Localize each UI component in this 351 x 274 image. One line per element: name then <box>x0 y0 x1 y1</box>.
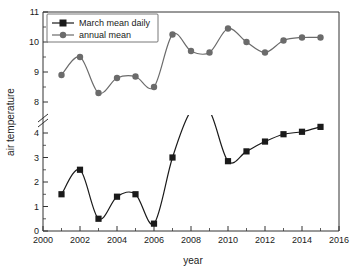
data-point <box>77 54 83 60</box>
x-axis-title: year <box>183 255 203 266</box>
x-tick-label-2008: 2008 <box>181 235 201 245</box>
data-point <box>280 37 286 43</box>
x-tick-label-2010: 2010 <box>218 235 238 245</box>
x-tick-label-2016: 2016 <box>329 235 349 245</box>
y-axis-title: air temperature <box>5 88 16 156</box>
data-point <box>132 191 138 197</box>
data-point <box>188 48 194 54</box>
legend: March mean daily annual mean <box>47 14 158 42</box>
y-tick-label-11: 11 <box>30 7 39 17</box>
data-point <box>317 34 323 40</box>
data-point <box>225 158 231 164</box>
data-point <box>114 75 120 81</box>
data-point <box>132 73 138 79</box>
data-point <box>58 191 64 197</box>
legend-marker-square <box>60 20 67 27</box>
data-point <box>206 49 212 55</box>
x-axis-ticks <box>43 226 339 231</box>
data-point <box>114 194 120 200</box>
data-point <box>243 148 249 154</box>
x-tick-label-2002: 2002 <box>70 235 90 245</box>
data-point <box>169 31 175 37</box>
data-point <box>58 72 64 78</box>
series-line <box>62 105 321 225</box>
data-point <box>169 154 175 160</box>
data-point <box>262 49 268 55</box>
data-point <box>206 108 212 114</box>
data-point <box>280 131 286 137</box>
data-point <box>95 90 101 96</box>
chart-canvas: 11 10 9 8 4 3 2 1 0 <box>0 0 351 274</box>
x-tick-label-2000: 2000 <box>33 235 53 245</box>
x-tick-label-2006: 2006 <box>144 235 164 245</box>
legend-label-march: March mean daily <box>79 18 151 28</box>
legend-label-annual: annual mean <box>79 30 131 40</box>
data-point <box>243 39 249 45</box>
y-axis-lower-ticks: 4 3 2 1 0 <box>34 128 48 236</box>
y-axis-upper-ticks: 11 10 9 8 <box>29 7 48 107</box>
y-tick-label-10: 10 <box>29 37 39 47</box>
x-tick-label-2014: 2014 <box>292 235 312 245</box>
data-point <box>225 25 231 31</box>
series-layer <box>58 25 323 226</box>
chart-figure: 11 10 9 8 4 3 2 1 0 <box>0 0 351 274</box>
y-tick-label-3: 3 <box>34 153 39 163</box>
y-tick-label-2: 2 <box>34 177 39 187</box>
series-march-mean-daily <box>58 105 323 227</box>
plot-frame <box>43 12 339 231</box>
data-point <box>262 138 268 144</box>
data-point <box>188 108 194 114</box>
data-point <box>299 34 305 40</box>
data-point <box>151 221 157 227</box>
x-tick-label-2004: 2004 <box>107 235 127 245</box>
data-point <box>151 84 157 90</box>
legend-marker-circle <box>60 32 66 38</box>
x-axis-tick-labels: 2000 2002 2004 2006 2008 2010 2012 2014 … <box>33 235 349 245</box>
y-tick-label-4: 4 <box>34 128 39 138</box>
y-tick-label-1: 1 <box>34 202 39 212</box>
data-point <box>77 167 83 173</box>
data-point <box>317 124 323 130</box>
data-point <box>299 129 305 135</box>
y-tick-label-9: 9 <box>34 67 39 77</box>
data-point <box>95 216 101 222</box>
y-tick-label-8: 8 <box>34 97 39 107</box>
x-tick-label-2012: 2012 <box>255 235 275 245</box>
